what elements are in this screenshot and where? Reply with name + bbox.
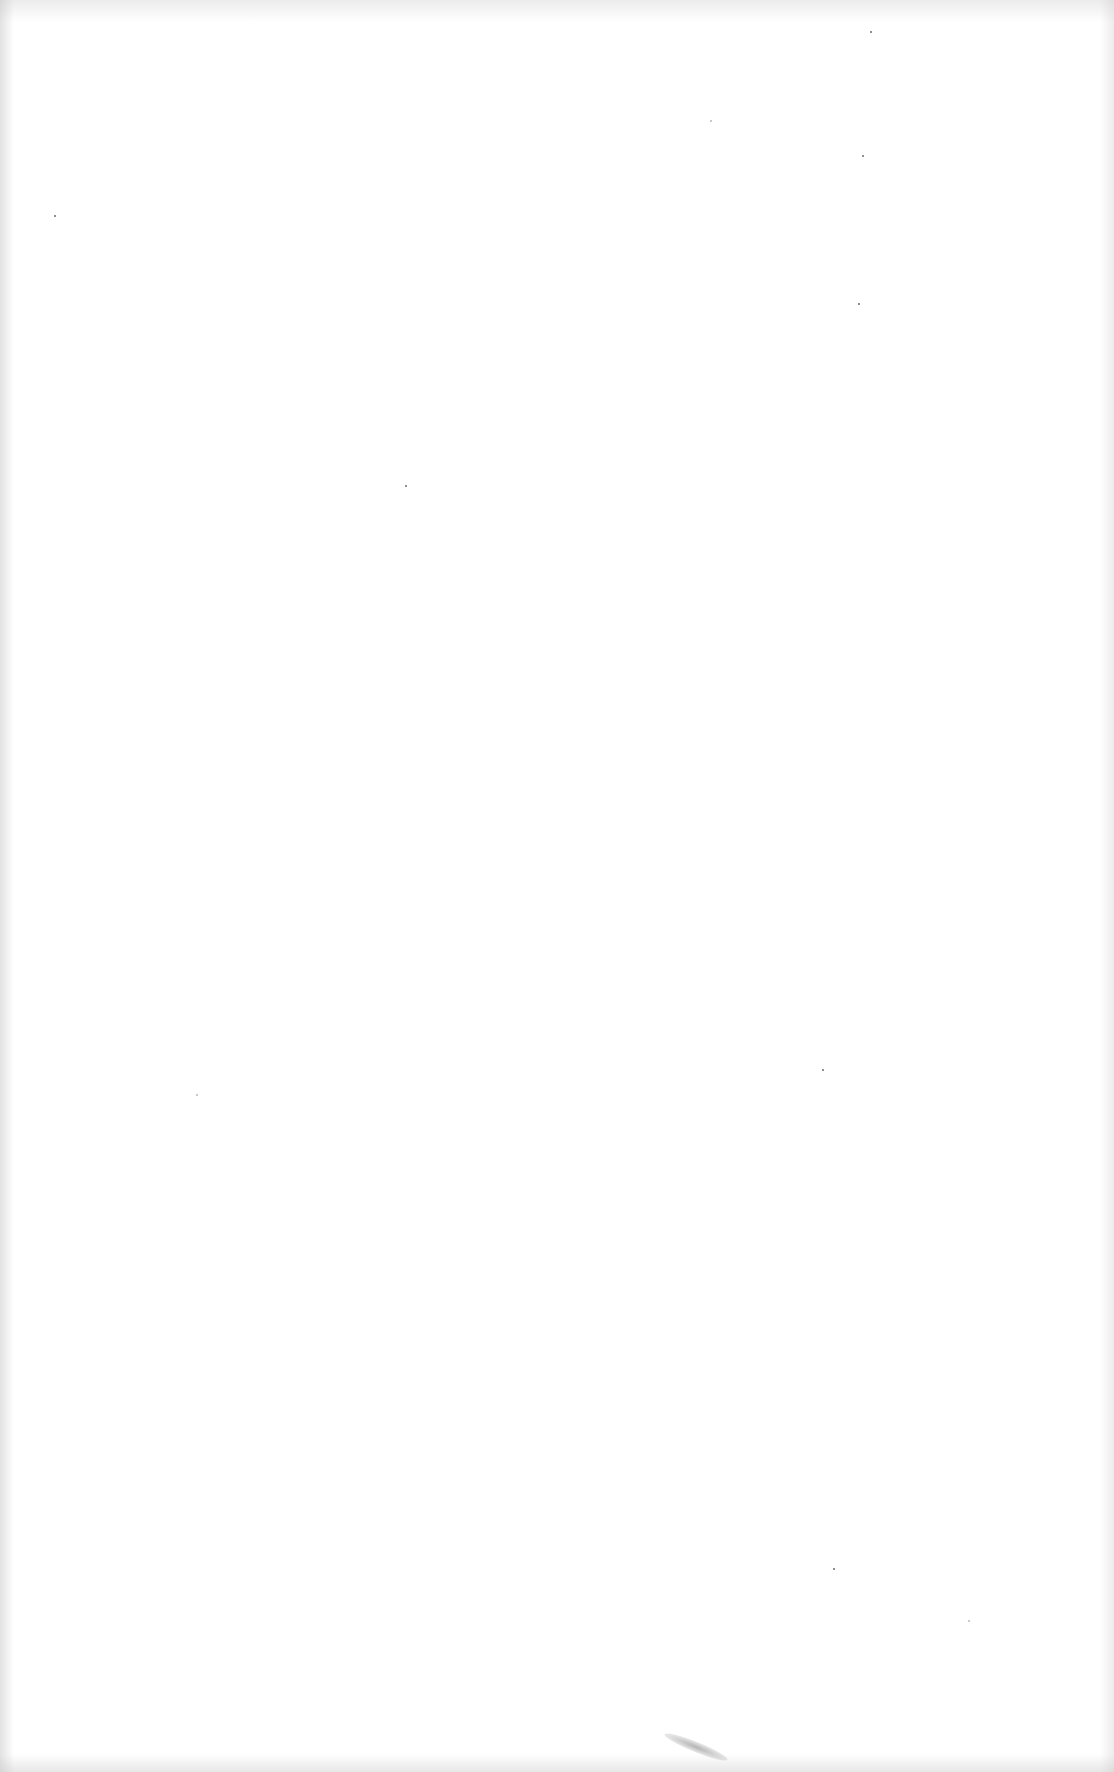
blank-page [0,0,1114,1772]
dust-speck [968,1620,970,1622]
dust-speck [862,155,864,157]
dust-speck [822,1069,824,1071]
scan-edge-left [0,0,14,1772]
dust-speck [405,485,407,487]
scan-edge-bottom [0,1754,1114,1772]
scan-edge-right [1100,0,1114,1772]
dust-speck [833,1568,835,1570]
dust-speck [710,120,712,122]
dust-speck [54,215,56,217]
dust-speck [870,31,872,33]
dust-speck [858,303,860,305]
scan-edge-top [0,0,1114,22]
dust-speck [196,1094,198,1096]
